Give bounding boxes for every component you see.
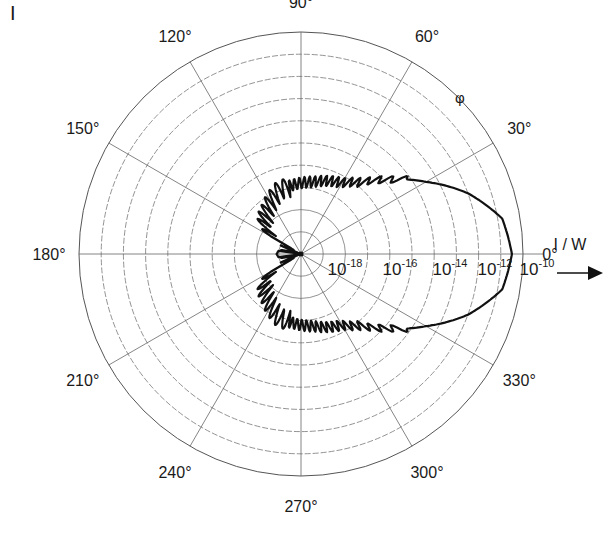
angle-tick-label: 90°: [289, 0, 313, 11]
grid-spoke: [301, 62, 412, 254]
angle-tick-label: 180°: [32, 246, 65, 263]
radial-axis-label: I / W: [554, 236, 588, 253]
grid-spoke: [190, 62, 301, 254]
polar-grid: [79, 32, 543, 476]
radial-tick-label: 10-18: [328, 257, 363, 279]
radial-tick-label: 10-10: [520, 257, 555, 279]
angle-tick-label: 60°: [415, 28, 439, 45]
angle-tick-label: 210°: [66, 372, 99, 389]
polar-chart: 0°30°60°90°120°150°180°210°240°270°300°3…: [0, 0, 615, 560]
grid-spoke: [301, 254, 412, 446]
angle-tick-label: 330°: [503, 372, 536, 389]
phi-symbol: φ: [455, 89, 465, 106]
angle-tick-label: 30°: [507, 120, 531, 137]
angle-tick-label: 300°: [410, 464, 443, 481]
arrow-head-icon: [588, 266, 603, 280]
grid-spoke: [301, 143, 493, 254]
angle-tick-label: 150°: [66, 120, 99, 137]
angle-tick-label: 270°: [284, 498, 317, 515]
radial-tick-label: 10-16: [383, 257, 418, 279]
grid-spoke: [190, 254, 301, 446]
radial-tick-label: 10-14: [433, 257, 468, 279]
angle-tick-label: 120°: [158, 28, 191, 45]
angle-tick-label: 240°: [158, 464, 191, 481]
